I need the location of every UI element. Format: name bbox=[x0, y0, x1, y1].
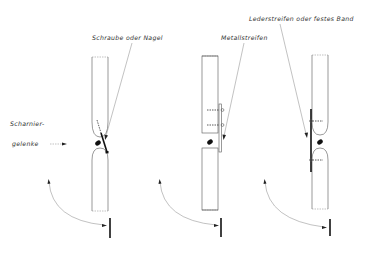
upper-limb bbox=[202, 56, 218, 133]
joint-pivot bbox=[316, 138, 323, 145]
label-leather-strip: Lederstreifen oder festes Band bbox=[249, 15, 354, 22]
metal-strip-leader bbox=[224, 43, 244, 136]
panel-leather-strip-joint bbox=[264, 24, 331, 236]
label-hinge-line2: gelenke bbox=[12, 140, 39, 148]
hinge-pointer-arrow bbox=[50, 143, 67, 146]
joint-pivot bbox=[206, 138, 213, 145]
label-screw-or-nail: Schraube oder Nagel bbox=[92, 34, 163, 42]
joint-pivot bbox=[94, 139, 101, 146]
panel-screw-joint bbox=[48, 43, 133, 238]
rotation-arc bbox=[265, 182, 324, 227]
upper-limb bbox=[312, 55, 328, 135]
leather-strip-leader bbox=[280, 24, 306, 134]
upper-limb bbox=[92, 57, 108, 137]
lower-limb bbox=[202, 148, 218, 210]
screw-shaft-dashed bbox=[97, 120, 101, 133]
panel-metal-strip-joint bbox=[159, 43, 245, 237]
metal-strip bbox=[219, 104, 222, 152]
rotation-arc bbox=[49, 182, 104, 225]
screw-leader bbox=[106, 43, 132, 136]
lower-limb bbox=[92, 148, 108, 211]
hinge-joint-diagram: Lederstreifen oder festes Band Schraube … bbox=[0, 0, 387, 259]
rotation-arc bbox=[160, 182, 216, 225]
label-metal-strip: Metallstreifen bbox=[221, 34, 268, 41]
lower-limb bbox=[312, 148, 328, 209]
label-hinge-line1: Scharnier- bbox=[10, 120, 44, 127]
